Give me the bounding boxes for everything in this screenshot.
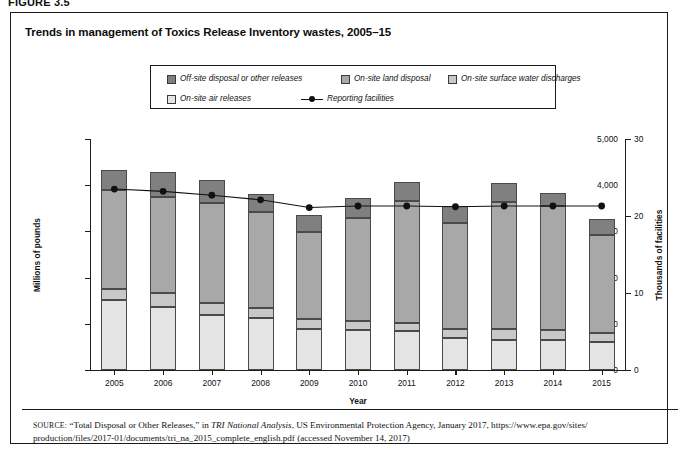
x-tick <box>407 370 408 375</box>
bar-segment <box>540 193 566 207</box>
bar-segment <box>589 342 615 370</box>
y-tick-left <box>85 185 90 186</box>
bar-segment <box>150 172 176 197</box>
bar-segment <box>248 212 274 309</box>
bar-group: 2008 <box>248 139 274 370</box>
bar-segment <box>248 318 274 370</box>
bar-segment <box>442 329 468 338</box>
bar-segment <box>540 206 566 329</box>
bar-segment <box>540 340 566 370</box>
source-prefix: SOURCE: <box>33 421 67 430</box>
bar-segment <box>296 319 322 328</box>
bar-group: 2007 <box>199 139 225 370</box>
x-tick <box>114 370 115 375</box>
bar-segment <box>199 180 225 203</box>
bar-segment <box>296 232 322 319</box>
y-axis-right-title: Thousands of facilities <box>654 210 664 301</box>
x-tick-label: 2013 <box>495 378 514 388</box>
source-note: SOURCE: “Total Disposal or Other Release… <box>33 419 663 445</box>
bar-segment <box>589 333 615 342</box>
x-tick <box>163 370 164 375</box>
x-tick-label: 2008 <box>251 378 270 388</box>
bar-segment <box>199 303 225 315</box>
x-tick <box>309 370 310 375</box>
bar-segment <box>442 206 468 223</box>
bar-segment <box>150 293 176 307</box>
bar-segment <box>248 308 274 318</box>
plot-wrapper: Millions of pounds Thousands of faciliti… <box>11 13 669 445</box>
bar-group: 2014 <box>540 139 566 370</box>
figure-container: Trends in management of Toxics Release I… <box>10 12 668 444</box>
bar-segment <box>491 329 517 340</box>
bar-segment <box>394 331 420 370</box>
bar-segment <box>540 330 566 341</box>
y-tick-right <box>626 293 631 294</box>
bar-segment <box>589 219 615 234</box>
bar-segment <box>150 307 176 370</box>
bar-segment <box>589 235 615 333</box>
bar-segment <box>248 194 274 211</box>
bar-segment <box>296 329 322 370</box>
bar-segment <box>345 321 371 331</box>
bar-segment <box>394 323 420 331</box>
bar-group: 2011 <box>394 139 420 370</box>
y-tick-label-right: 10 <box>634 288 643 298</box>
bar-segment <box>101 170 127 190</box>
bar-segment <box>442 223 468 329</box>
x-axis-title: Year <box>349 396 367 406</box>
y-tick-right <box>626 216 631 217</box>
x-tick <box>602 370 603 375</box>
bar-segment <box>345 218 371 321</box>
bar-segment <box>394 182 420 201</box>
bar-group: 2012 <box>442 139 468 370</box>
x-tick <box>358 370 359 375</box>
y-axis-left-title: Millions of pounds <box>32 218 42 292</box>
x-tick <box>212 370 213 375</box>
y-tick-left <box>85 278 90 279</box>
y-tick-left <box>85 324 90 325</box>
x-tick-label: 2012 <box>446 378 465 388</box>
y-tick-label-right: 30 <box>634 134 643 144</box>
x-tick-label: 2009 <box>300 378 319 388</box>
bar-segment <box>150 197 176 293</box>
x-tick <box>261 370 262 375</box>
y-tick-label-right: 0 <box>634 365 639 375</box>
x-tick <box>504 370 505 375</box>
x-tick-label: 2015 <box>592 378 611 388</box>
plot-area: 01,0002,0003,0004,0005,000 0102030 20052… <box>90 139 626 370</box>
bar-segment <box>491 183 517 202</box>
y-tick-right <box>626 139 631 140</box>
bar-segment <box>491 202 517 329</box>
bar-segment <box>101 190 127 289</box>
bar-segment <box>345 198 371 218</box>
source-line1a: “Total Disposal or Other Releases,” in <box>67 420 211 430</box>
source-line1-italic: TRI National Analysis <box>211 420 292 430</box>
x-tick-label: 2010 <box>349 378 368 388</box>
y-tick-left <box>85 139 90 140</box>
x-tick-label: 2005 <box>105 378 124 388</box>
y-tick-right <box>626 370 631 371</box>
x-tick-label: 2014 <box>544 378 563 388</box>
bar-segment <box>442 338 468 370</box>
bar-segment <box>394 201 420 323</box>
bar-group: 2010 <box>345 139 371 370</box>
y-tick-left <box>85 231 90 232</box>
y-tick-label-right: 20 <box>634 211 643 221</box>
source-divider <box>22 409 678 410</box>
source-line1b: , US Environmental Protection Agency, Ja… <box>292 420 588 430</box>
figure-number: FIGURE 3.5 <box>8 0 70 8</box>
x-tick-label: 2007 <box>202 378 221 388</box>
x-tick-label: 2006 <box>154 378 173 388</box>
bar-segment <box>199 315 225 370</box>
bar-group: 2005 <box>101 139 127 370</box>
bar-segment <box>491 340 517 370</box>
bar-group: 2013 <box>491 139 517 370</box>
x-tick-label: 2011 <box>398 378 416 388</box>
bar-segment <box>345 330 371 370</box>
bar-group: 2015 <box>589 139 615 370</box>
bar-group: 2006 <box>150 139 176 370</box>
source-line2: production/files/2017-01/documents/tri_n… <box>33 433 410 443</box>
x-tick <box>455 370 456 375</box>
x-tick <box>553 370 554 375</box>
y-tick-left <box>85 370 90 371</box>
